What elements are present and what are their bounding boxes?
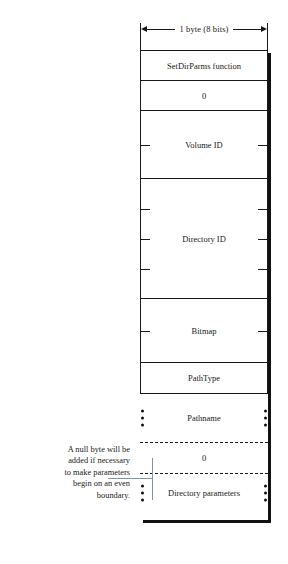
annotation-line: to make parameters [8,467,130,478]
packet-shadow-bottom [143,520,271,523]
field-label: Pathname [140,413,268,424]
annotation-line: A null byte will be [8,444,130,455]
packet-field-stack: SetDirParms function 0 Volume ID Directo… [140,50,268,512]
packet-field-pathtype: PathType [140,362,268,394]
field-label: 0 [141,90,267,101]
field-label: Directory ID [141,233,267,244]
byte-tick-left [141,209,150,210]
packet-field-directory-parameters: Directory parameters [140,474,268,512]
packet-field-pad-zero: 0 [140,442,268,474]
callout-annotation: A null byte will be added if necessary t… [8,444,130,501]
byte-tick-right [258,269,267,270]
byte-tick-right [258,209,267,210]
callout-leader-stub [152,458,153,500]
packet-field-reserved-zero: 0 [140,80,268,110]
field-label: Volume ID [141,139,267,150]
packet-shadow-right [268,53,271,523]
field-label: Bitmap [141,325,267,336]
diagram-canvas: 1 byte (8 bits) SetDirParms function 0 V… [0,0,288,564]
dimension-label: 1 byte (8 bits) [140,22,268,36]
annotation-line: added if necessary [8,455,130,466]
packet-field-directory-id: Directory ID [140,178,268,298]
field-label: SetDirParms function [141,60,267,71]
packet-field-pathname: Pathname [140,394,268,442]
field-label: 0 [140,453,268,464]
packet-field-bitmap: Bitmap [140,298,268,362]
packet-field-volume-id: Volume ID [140,110,268,178]
byte-width-dimension: 1 byte (8 bits) [140,22,268,48]
field-label: Directory parameters [140,488,268,499]
field-label: PathType [141,373,267,384]
annotation-line: begin on an even [8,478,130,489]
annotation-line: boundary. [8,490,130,501]
byte-tick-left [141,269,150,270]
packet-field-setdirparms-function: SetDirParms function [140,50,268,80]
